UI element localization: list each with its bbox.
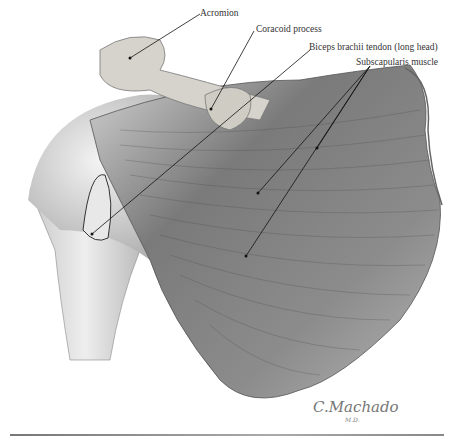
label-coracoid-process: Coracoid process <box>256 25 322 35</box>
label-biceps-tendon: Biceps brachii tendon (long head) <box>309 43 438 53</box>
artist-signature: C.Machado <box>313 398 399 416</box>
signature-suffix: M.D. <box>345 416 360 423</box>
subscapularis-shape <box>90 65 441 398</box>
footer-divider <box>10 434 444 436</box>
label-subscapularis: Subscapularis muscle <box>356 58 438 68</box>
anatomy-illustration: Acromion Coracoid process Biceps brachii… <box>0 0 453 442</box>
label-acromion: Acromion <box>200 9 239 19</box>
